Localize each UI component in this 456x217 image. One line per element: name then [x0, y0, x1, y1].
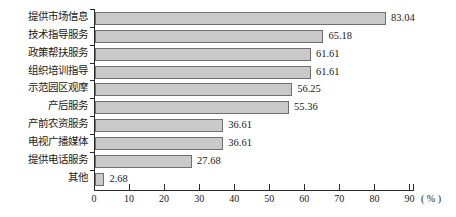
- y-axis-tick: [90, 152, 95, 153]
- bar-row: 产后服务55.36: [0, 101, 456, 114]
- horizontal-bar-chart: 提供市场信息83.04技术指导服务65.18政策帮扶服务61.61组织培训指导6…: [0, 0, 456, 217]
- bar-value-label: 83.04: [391, 11, 415, 24]
- bar: [95, 12, 386, 25]
- bar-value-label: 55.36: [294, 100, 318, 113]
- x-axis-tick: [164, 184, 165, 190]
- bar: [95, 173, 104, 186]
- x-axis-tick-label: 60: [299, 193, 309, 205]
- bar-row: 电视广播媒体36.61: [0, 137, 456, 150]
- category-label: 政策帮扶服务: [0, 46, 88, 59]
- category-label: 提供电话服务: [0, 153, 88, 166]
- y-axis-tick: [90, 98, 95, 99]
- bar-value-label: 2.68: [109, 172, 127, 185]
- bar-row: 产前农资服务36.61: [0, 119, 456, 132]
- x-axis-tick: [409, 184, 410, 190]
- bar: [95, 119, 223, 132]
- x-axis-tick-label: 10: [124, 193, 134, 205]
- bar: [95, 137, 223, 150]
- bar-row: 提供电话服务27.68: [0, 155, 456, 168]
- category-label: 提供市场信息: [0, 10, 88, 23]
- x-axis-tick: [234, 184, 235, 190]
- x-axis-tick: [129, 184, 130, 190]
- bar-value-label: 36.61: [228, 118, 252, 131]
- bar-value-label: 36.61: [228, 136, 252, 149]
- y-axis-tick: [90, 170, 95, 171]
- category-label: 产后服务: [0, 99, 88, 112]
- x-axis-tick: [269, 184, 270, 190]
- y-axis-tick: [90, 116, 95, 117]
- x-axis-unit-label: ( % ): [421, 193, 441, 205]
- bar-value-label: 61.61: [316, 47, 340, 60]
- bar-row: 其他2.68: [0, 173, 456, 186]
- y-axis-tick: [90, 63, 95, 64]
- category-label: 示范园区观摩: [0, 81, 88, 94]
- x-axis-tick: [199, 184, 200, 190]
- x-axis-tick: [374, 184, 375, 190]
- bar-row: 技术指导服务65.18: [0, 30, 456, 43]
- bar: [95, 30, 323, 43]
- bar-row: 组织培训指导61.61: [0, 66, 456, 79]
- y-axis-tick: [90, 134, 95, 135]
- x-axis-tick-label: 50: [264, 193, 274, 205]
- bar: [95, 155, 192, 168]
- x-axis-tick-label: 90: [404, 193, 414, 205]
- bar-value-label: 27.68: [197, 154, 221, 167]
- x-axis-tick: [94, 184, 95, 190]
- category-label: 组织培训指导: [0, 64, 88, 77]
- bar-row: 提供市场信息83.04: [0, 12, 456, 25]
- bar-row: 示范园区观摩56.25: [0, 83, 456, 96]
- x-axis-tick-label: 0: [92, 193, 97, 205]
- bar-value-label: 61.61: [316, 65, 340, 78]
- bar: [95, 101, 289, 114]
- category-label: 其他: [0, 171, 88, 184]
- bar: [95, 48, 311, 61]
- category-label: 产前农资服务: [0, 117, 88, 130]
- y-axis-tick: [90, 45, 95, 46]
- x-axis-tick-label: 80: [369, 193, 379, 205]
- bar-value-label: 65.18: [328, 29, 352, 42]
- category-label: 技术指导服务: [0, 28, 88, 41]
- y-axis-tick: [90, 9, 95, 10]
- x-axis-tick: [304, 184, 305, 190]
- bar: [95, 83, 292, 96]
- y-axis-tick: [90, 27, 95, 28]
- x-axis-tick-label: 70: [334, 193, 344, 205]
- bar: [95, 66, 311, 79]
- x-axis-tick-label: 30: [194, 193, 204, 205]
- x-axis-tick: [339, 184, 340, 190]
- plot-area: 提供市场信息83.04技术指导服务65.18政策帮扶服务61.61组织培训指导6…: [0, 0, 456, 217]
- bar-value-label: 56.25: [297, 82, 321, 95]
- x-axis-tick-label: 20: [159, 193, 169, 205]
- bar-row: 政策帮扶服务61.61: [0, 48, 456, 61]
- category-label: 电视广播媒体: [0, 135, 88, 148]
- x-axis-tick-label: 40: [229, 193, 239, 205]
- x-axis-line: [94, 190, 414, 191]
- y-axis-tick: [90, 80, 95, 81]
